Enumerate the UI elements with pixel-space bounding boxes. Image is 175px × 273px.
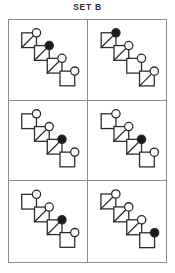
- open-circle-1: [32, 29, 40, 37]
- figure-shapes: [101, 29, 158, 86]
- figure-bottom-left: [9, 181, 87, 262]
- filled-circle-4: [150, 229, 158, 237]
- figure-cell-middle-right[interactable]: [88, 101, 167, 182]
- filled-circle-3: [58, 135, 66, 143]
- figure-grid: [8, 19, 167, 263]
- open-circle-4: [150, 148, 158, 156]
- figure-cell-middle-left[interactable]: [9, 101, 88, 182]
- figure-cell-bottom-right[interactable]: [88, 181, 167, 262]
- figure-middle-right: [88, 101, 167, 181]
- figure-bottom-right: [88, 181, 167, 262]
- open-circle-3: [137, 54, 145, 62]
- open-circle-1: [111, 109, 119, 117]
- open-circle-2: [45, 122, 53, 130]
- filled-circle-3: [137, 135, 145, 143]
- filled-circle-2: [45, 41, 53, 49]
- open-circle-4: [71, 229, 79, 237]
- figure-shapes: [22, 29, 79, 86]
- set-b-panel: SET B: [0, 0, 175, 273]
- open-circle-2: [124, 41, 132, 49]
- open-circle-4: [150, 67, 158, 75]
- figure-shapes: [100, 190, 158, 248]
- filled-circle-1: [111, 29, 119, 37]
- open-circle-3: [58, 54, 66, 62]
- figure-shapes: [22, 109, 79, 166]
- open-circle-2: [45, 203, 53, 211]
- open-circle-3: [137, 216, 145, 224]
- figure-shapes: [101, 109, 158, 166]
- page-title: SET B: [0, 2, 175, 12]
- figure-shapes: [22, 191, 79, 248]
- open-circle-2: [124, 122, 132, 130]
- open-circle-4: [71, 148, 79, 156]
- figure-cell-top-right[interactable]: [88, 20, 167, 101]
- open-circle-4: [71, 67, 79, 75]
- open-circle-1: [111, 190, 119, 198]
- figure-cell-top-left[interactable]: [9, 20, 88, 101]
- filled-circle-3: [58, 216, 66, 224]
- figure-middle-left: [9, 101, 87, 181]
- figure-cell-bottom-left[interactable]: [9, 181, 88, 262]
- open-circle-2: [124, 203, 132, 211]
- figure-top-left: [9, 20, 87, 100]
- figure-top-right: [88, 20, 167, 100]
- open-circle-1: [32, 109, 40, 117]
- open-circle-1: [32, 191, 40, 199]
